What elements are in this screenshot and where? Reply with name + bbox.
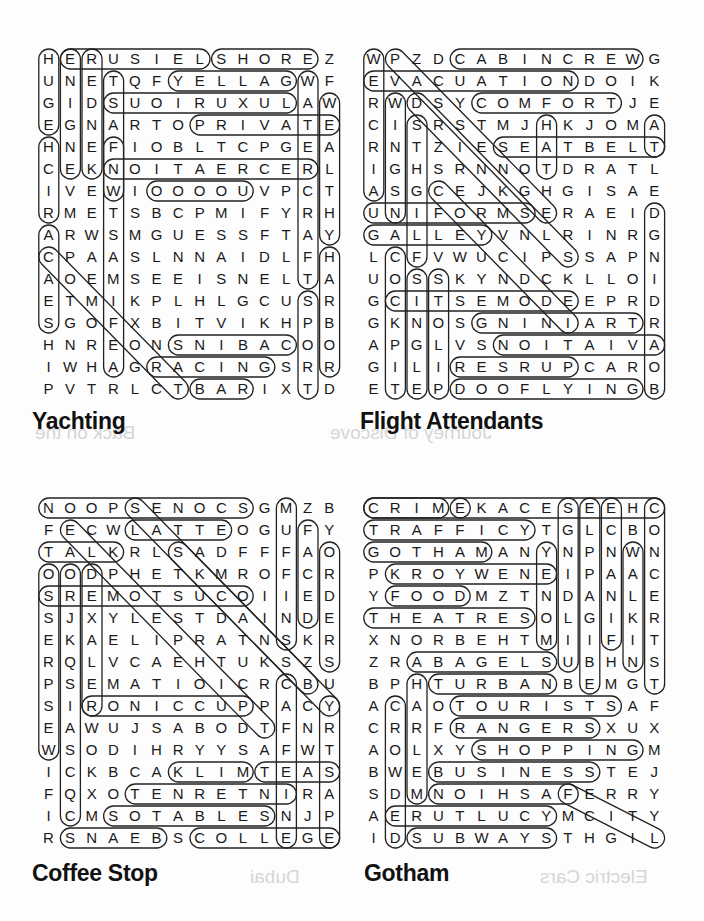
grid-letter: O [319,541,340,563]
grid-letter: R [579,92,600,114]
grid-letter: T [644,136,665,158]
grid-letter: N [385,136,406,158]
grid-letter: A [211,629,232,651]
grid-letter: D [211,541,232,563]
grid-letter: G [622,673,643,695]
grid-letter: N [493,312,514,334]
grid-letter: E [514,136,535,158]
grid-letter: Y [536,541,557,563]
grid-letter: M [406,783,427,805]
grid-letter: I [557,563,578,585]
grid-letter: U [211,92,232,114]
grid-letter: F [276,563,297,585]
grid-letter: O [644,356,665,378]
grid-letter: O [254,563,275,585]
grid-letter: E [211,158,232,180]
grid-letter: M [81,290,102,312]
grid-letter: Z [297,651,318,673]
grid-letter: E [579,673,600,695]
grid-letter: G [363,224,384,246]
grid-letter: E [168,48,189,70]
grid-letter: O [211,717,232,739]
grid-letter: E [601,48,622,70]
grid-letter: A [622,563,643,585]
grid-letter: O [385,268,406,290]
grid-letter: T [449,607,470,629]
grid-letter: A [601,563,622,585]
grid-letter: D [232,717,253,739]
grid-letter: N [557,541,578,563]
grid-letter: R [124,541,145,563]
grid-letter: E [232,805,253,827]
grid-letter: W [297,739,318,761]
grid-letter: A [644,114,665,136]
grid-letter: A [579,334,600,356]
grid-letter: T [124,783,145,805]
grid-letter: I [406,202,427,224]
grid-letter: R [319,290,340,312]
grid-letter: D [103,739,124,761]
grid-letter: S [146,717,167,739]
grid-letter: S [124,497,145,519]
grid-letter: S [319,761,340,783]
grid-letter: A [297,761,318,783]
grid-letter: W [297,70,318,92]
grid-letter: B [189,805,210,827]
grid-letter: R [622,356,643,378]
grid-letter: B [146,202,167,224]
grid-letter: O [146,180,167,202]
grid-letter: F [38,519,59,541]
grid-letter: E [493,607,514,629]
grid-letter: R [428,629,449,651]
grid-letter: R [232,378,253,400]
grid-letter: T [189,312,210,334]
grid-letter: U [493,805,514,827]
grid-letter: F [557,783,578,805]
grid-letter: B [146,312,167,334]
grid-letter: R [406,717,427,739]
grid-letter: S [557,761,578,783]
grid-letter: I [601,334,622,356]
grid-letter: Y [211,739,232,761]
grid-letter: C [428,180,449,202]
grid-letter: N [557,70,578,92]
grid-letter: O [297,334,318,356]
grid-letter: N [644,246,665,268]
grid-letter: T [601,92,622,114]
grid-letter: A [232,607,253,629]
grid-letter: E [81,268,102,290]
grid-letter: X [644,717,665,739]
grid-letter: E [406,607,427,629]
grid-letter: K [385,563,406,585]
grid-letter: H [124,563,145,585]
grid-letter: X [428,739,449,761]
grid-letter: A [514,673,535,695]
grid-letter: Y [168,70,189,92]
grid-letter: U [428,827,449,849]
grid-letter: T [363,519,384,541]
grid-letter: C [363,717,384,739]
grid-letter: Z [319,48,340,70]
grid-letter: E [146,607,167,629]
grid-letter: E [146,563,167,585]
grid-letter: S [319,651,340,673]
grid-letter: S [557,246,578,268]
grid-letter: F [536,92,557,114]
grid-letter: O [124,334,145,356]
grid-letter: O [428,563,449,585]
grid-letter: N [232,268,253,290]
grid-letter: G [38,92,59,114]
grid-letter: I [211,334,232,356]
grid-letter: T [254,761,275,783]
grid-letter: M [211,563,232,585]
grid-letter: G [622,378,643,400]
grid-letter: I [103,290,124,312]
grid-letter: C [471,92,492,114]
grid-letter: X [124,312,145,334]
grid-letter: R [428,114,449,136]
grid-letter: B [493,48,514,70]
grid-letter: B [644,378,665,400]
grid-letter: C [385,246,406,268]
grid-letter: C [168,695,189,717]
grid-letter: D [557,585,578,607]
